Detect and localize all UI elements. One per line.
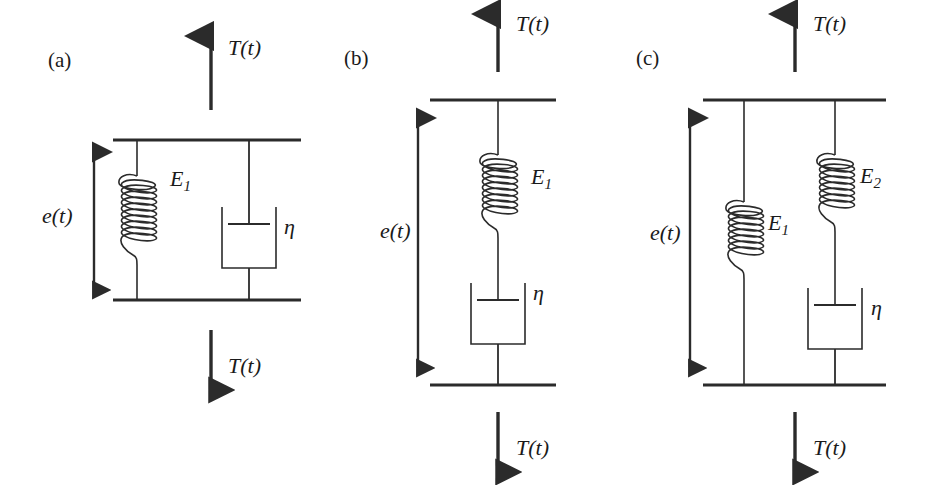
panel-c-strain-label: e(t) bbox=[650, 222, 681, 244]
panel-c-spring1-label-symbol: E bbox=[768, 210, 781, 235]
panel-c-spring1-label: E1 bbox=[768, 212, 789, 238]
panel-b-diagram bbox=[418, 14, 556, 472]
panel-a-letter: (a) bbox=[48, 50, 71, 71]
rheological-models-figure: (a) T(t) T(t) e(t) E1 η (b) T(t) T(t) e(… bbox=[0, 0, 927, 485]
panel-b-spring-label: E1 bbox=[531, 166, 552, 192]
panel-a-strain-label: e(t) bbox=[42, 205, 73, 227]
panel-b-strain-label: e(t) bbox=[380, 220, 411, 242]
panel-a-spring-coil bbox=[119, 175, 157, 265]
panel-c-spring1-label-subscript: 1 bbox=[781, 222, 789, 238]
panel-a-dashpot-label: η bbox=[284, 216, 295, 238]
panel-c-spring2-label-subscript: 2 bbox=[873, 175, 881, 191]
panel-b-spring-label-subscript: 1 bbox=[544, 176, 552, 192]
panel-c-diagram bbox=[690, 14, 886, 472]
panel-c-letter: (c) bbox=[636, 48, 659, 69]
panel-c-spring2-label-symbol: E bbox=[860, 163, 873, 188]
panel-a-bottom-force-label: T(t) bbox=[228, 355, 261, 377]
panel-b-bottom-force-label: T(t) bbox=[516, 437, 549, 459]
panel-c-dashpot-label: η bbox=[871, 297, 882, 319]
panel-b-top-force-label: T(t) bbox=[516, 13, 549, 35]
panel-a-top-force-label: T(t) bbox=[228, 37, 261, 59]
panel-c-spring2-coil bbox=[817, 154, 855, 232]
panel-a-spring-label-symbol: E bbox=[170, 166, 183, 191]
panel-b-dashpot-label: η bbox=[533, 282, 544, 304]
panel-c-bottom-force-label: T(t) bbox=[813, 437, 846, 459]
panel-c-spring1-coil bbox=[726, 201, 764, 279]
panel-b-letter: (b) bbox=[344, 48, 369, 69]
panel-c-top-force-label: T(t) bbox=[813, 13, 846, 35]
panel-c-spring2-label: E2 bbox=[860, 165, 881, 191]
panel-a-spring-label: E1 bbox=[170, 168, 191, 194]
panel-a-spring-label-subscript: 1 bbox=[183, 178, 191, 194]
figure-canvas bbox=[0, 0, 927, 485]
panel-b-spring-label-symbol: E bbox=[531, 164, 544, 189]
panel-a-diagram bbox=[94, 36, 301, 390]
panel-b-spring-coil bbox=[480, 154, 518, 238]
